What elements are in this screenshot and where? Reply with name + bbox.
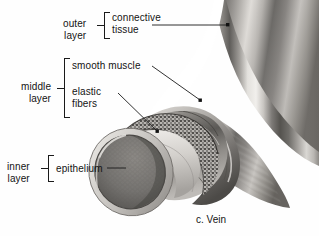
outer-layer-bracket bbox=[104, 12, 110, 39]
leader-dot-connective bbox=[226, 23, 229, 26]
elastic-fibers-label: elastic fibers bbox=[72, 86, 101, 109]
middle-layer-group-label: middle layer bbox=[21, 81, 51, 104]
inner-layer-bracket bbox=[48, 155, 54, 182]
vein-illustration bbox=[0, 0, 319, 236]
figure-caption: c. Vein bbox=[196, 214, 226, 225]
epithelium-label: epithelium bbox=[56, 163, 103, 175]
smooth-muscle-label: smooth muscle bbox=[72, 60, 141, 72]
inner-layer-group-label: inner layer bbox=[7, 161, 30, 184]
inner-layer-dash bbox=[41, 168, 48, 169]
middle-layer-dash bbox=[57, 88, 64, 89]
leader-dot-elastic bbox=[156, 130, 159, 133]
leader-dot-muscle bbox=[199, 99, 202, 102]
middle-layer-bracket bbox=[64, 58, 70, 118]
vein-anatomy-figure: outer layer connective tissue middle lay… bbox=[0, 0, 319, 236]
connective-tissue-label: connective tissue bbox=[112, 12, 161, 35]
outer-layer-group-label: outer layer bbox=[63, 18, 86, 41]
outer-layer-dash bbox=[97, 25, 104, 26]
